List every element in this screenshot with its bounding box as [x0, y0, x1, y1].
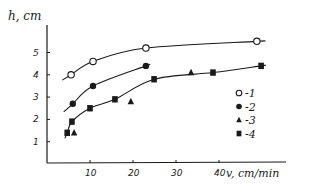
x-tick-label: 20	[128, 168, 140, 178]
legend: -1-2-3-4	[236, 87, 256, 141]
y-tick-label: 5	[33, 48, 39, 58]
x-axis-label: v, cm/min	[226, 167, 279, 180]
legend-item-series-1: -1	[236, 87, 256, 100]
data-points	[64, 38, 264, 136]
square-marker	[210, 69, 216, 75]
square-marker	[237, 131, 242, 137]
square-marker	[258, 63, 264, 69]
triangle-marker	[128, 98, 134, 104]
triangle-marker	[71, 129, 77, 135]
square-marker	[64, 130, 70, 136]
x-tick-label: 40	[214, 168, 226, 178]
triangle-marker	[236, 117, 242, 123]
chart-canvas: 12345 10203040 h, cm v, cm/min -1-2-3-4	[0, 0, 314, 190]
legend-label: -3	[245, 114, 256, 127]
y-tick-label: 3	[33, 92, 39, 102]
filled-circle-marker	[70, 101, 76, 107]
x-axis	[47, 162, 286, 163]
triangle-marker	[188, 69, 194, 75]
square-marker	[69, 118, 75, 124]
x-tick-label: 30	[171, 168, 183, 178]
filled-circle-marker	[236, 104, 242, 110]
y-tick-label: 4	[33, 70, 39, 80]
fitted-curve-series-4	[65, 65, 266, 138]
fitted-curve-series-2	[64, 64, 150, 111]
open-circle-marker	[68, 72, 74, 78]
legend-item-series-3: -3	[236, 114, 256, 127]
square-marker	[112, 96, 118, 102]
filled-circle-marker	[143, 63, 149, 69]
fitted-curves	[62, 41, 265, 139]
square-marker	[87, 105, 93, 111]
open-circle-marker	[254, 38, 260, 44]
legend-label: -1	[245, 87, 256, 100]
legend-item-series-4: -4	[237, 128, 256, 141]
square-marker	[151, 76, 157, 82]
y-axis-label: h, cm	[8, 9, 41, 23]
legend-item-series-2: -2	[236, 101, 256, 114]
open-circle-marker	[143, 45, 149, 51]
y-tick-label: 1	[33, 137, 39, 147]
open-circle-marker	[236, 90, 242, 96]
open-circle-marker	[90, 58, 96, 64]
legend-label: -2	[245, 101, 256, 114]
x-tick-label: 10	[85, 168, 97, 178]
legend-label: -4	[245, 128, 256, 141]
y-tick-label: 2	[33, 114, 39, 124]
filled-circle-marker	[90, 83, 96, 89]
